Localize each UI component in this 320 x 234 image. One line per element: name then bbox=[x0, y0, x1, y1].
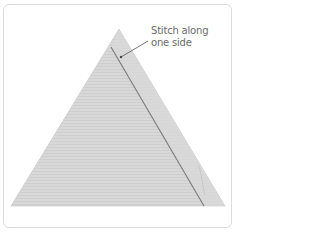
annotation-line-2: one side bbox=[151, 37, 208, 49]
annotation-line-1: Stitch along bbox=[151, 25, 208, 37]
leader-dot bbox=[120, 56, 122, 58]
stitch-annotation: Stitch along one side bbox=[151, 25, 208, 49]
